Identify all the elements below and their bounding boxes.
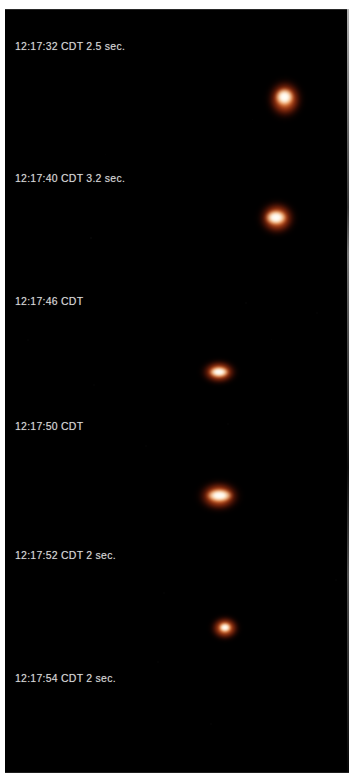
object-halo — [254, 197, 300, 239]
grain-speck — [271, 339, 272, 340]
object-core — [264, 209, 288, 226]
grain-speck — [157, 661, 159, 663]
caption-2: 12:17:40 CDT 3.2 sec. — [15, 172, 125, 184]
night-sky-plate: 12:17:32 CDT 2.5 sec. 12:17:40 CDT 3.2 s… — [5, 9, 349, 773]
object-halo — [263, 75, 307, 123]
object-core — [218, 622, 232, 633]
object-core — [274, 87, 294, 107]
object-halo — [207, 613, 243, 643]
caption-1: 12:17:32 CDT 2.5 sec. — [15, 40, 125, 52]
grain-speck — [90, 237, 92, 239]
light-object-5 — [207, 613, 243, 643]
grain-speck — [27, 339, 29, 341]
object-core — [208, 366, 230, 378]
light-object-3 — [197, 357, 241, 387]
plate-right-edge — [347, 9, 349, 773]
grain-speck — [252, 119, 253, 120]
caption-3: 12:17:46 CDT — [15, 295, 83, 307]
light-object-2 — [254, 197, 300, 239]
caption-5: 12:17:52 CDT 2 sec. — [15, 549, 116, 561]
grain-speck — [163, 592, 165, 594]
grain-speck — [316, 312, 318, 314]
object-halo — [197, 357, 241, 387]
plate-top-edge — [5, 9, 349, 10]
object-core — [205, 488, 233, 502]
grain-speck — [335, 579, 337, 581]
photo-sequence-page: 12:17:32 CDT 2.5 sec. 12:17:40 CDT 3.2 s… — [0, 0, 354, 773]
grain-speck — [145, 445, 147, 447]
light-object-4 — [193, 477, 245, 515]
grain-speck — [245, 302, 247, 304]
caption-4: 12:17:50 CDT — [15, 420, 83, 432]
object-halo — [193, 477, 245, 515]
grain-speck — [227, 423, 229, 425]
caption-6: 12:17:54 CDT 2 sec. — [15, 672, 116, 684]
light-object-1 — [263, 75, 307, 123]
grain-speck — [210, 723, 212, 725]
grain-speck — [105, 154, 106, 155]
grain-speck — [93, 384, 95, 386]
